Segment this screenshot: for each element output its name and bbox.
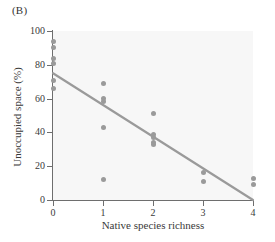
x-axis-label: Native species richness bbox=[53, 219, 253, 231]
data-point bbox=[51, 78, 56, 83]
data-point bbox=[101, 125, 106, 130]
x-tick-mark bbox=[203, 201, 204, 206]
data-point bbox=[251, 182, 256, 187]
data-point bbox=[51, 61, 56, 66]
y-tick-mark bbox=[47, 99, 52, 100]
data-point bbox=[151, 142, 156, 147]
x-tick-mark bbox=[253, 201, 254, 206]
data-point bbox=[151, 111, 156, 116]
data-point bbox=[51, 39, 56, 44]
x-tick-label: 1 bbox=[93, 208, 113, 218]
data-point bbox=[51, 86, 56, 91]
data-point bbox=[251, 176, 256, 181]
y-axis-label-wrap: Unoccupied space (%) bbox=[10, 32, 24, 202]
x-tick-label: 4 bbox=[243, 208, 263, 218]
y-tick-mark bbox=[47, 166, 52, 167]
x-tick-label: 3 bbox=[193, 208, 213, 218]
y-tick-mark bbox=[47, 200, 52, 201]
data-point bbox=[101, 177, 106, 182]
panel-label: (B) bbox=[12, 4, 27, 16]
x-tick-mark bbox=[103, 201, 104, 206]
y-tick-mark bbox=[47, 132, 52, 133]
y-tick-mark bbox=[47, 31, 52, 32]
data-point bbox=[51, 45, 56, 50]
x-tick-label: 0 bbox=[43, 208, 63, 218]
x-tick-label: 2 bbox=[143, 208, 163, 218]
x-tick-mark bbox=[153, 201, 154, 206]
data-point bbox=[51, 56, 56, 61]
data-point bbox=[101, 81, 106, 86]
figure-panel-b: (B) 020406080100 01234 Native species ri… bbox=[0, 0, 275, 242]
y-axis-label: Unoccupied space (%) bbox=[10, 32, 24, 202]
x-tick-mark bbox=[53, 201, 54, 206]
data-point bbox=[201, 179, 206, 184]
